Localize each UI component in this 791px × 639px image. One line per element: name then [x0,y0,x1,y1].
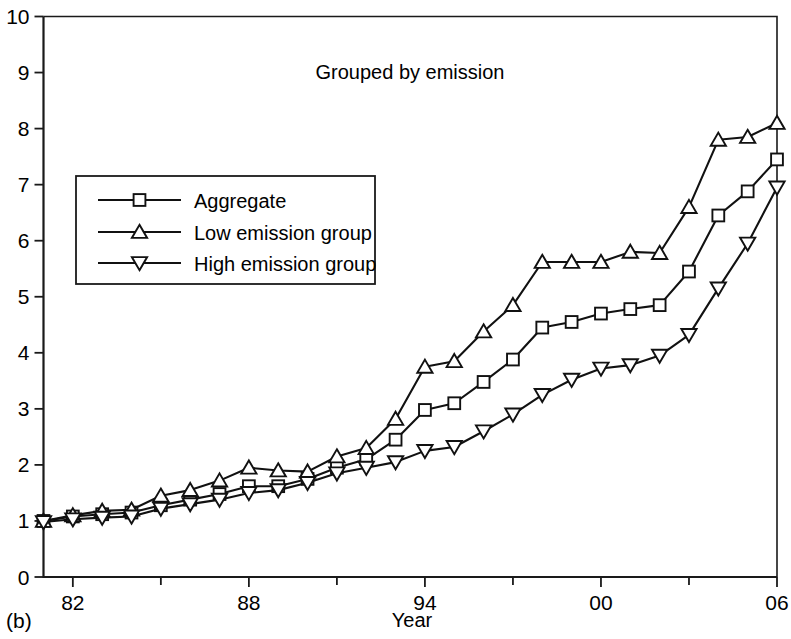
x-tick-label: 82 [61,591,84,614]
marker-triangle-down [535,389,550,402]
y-tick-label: 8 [18,117,30,140]
marker-square [742,185,754,197]
legend-label: Low emission group [194,222,372,244]
marker-triangle-down [476,425,491,438]
marker-triangle-up [212,473,227,486]
marker-triangle-up [505,298,520,311]
marker-triangle-down [593,363,608,376]
y-tick-label: 10 [6,5,29,28]
line-chart: 012345678910 8288940006 AggregateLow emi… [0,0,791,639]
marker-triangle-up [740,130,755,143]
marker-triangle-up [388,412,403,425]
y-tick-label: 9 [18,61,30,84]
y-axis-ticks: 012345678910 [6,5,43,589]
marker-square [654,299,666,311]
marker-square [507,354,519,366]
x-tick-label: 06 [765,591,788,614]
chart-legend: AggregateLow emission groupHigh emission… [76,176,376,284]
marker-triangle-down [417,445,432,458]
marker-triangle-up [241,461,256,474]
x-tick-label: 88 [237,591,260,614]
chart-title: Grouped by emission [316,61,505,83]
y-tick-label: 2 [18,453,30,476]
marker-square [448,397,460,409]
y-tick-label: 5 [18,285,30,308]
marker-square [134,194,146,206]
legend-label: High emission group [194,253,376,275]
marker-square [536,322,548,334]
marker-square [683,266,695,278]
chart-figure: 012345678910 8288940006 AggregateLow emi… [0,0,791,639]
x-tick-label: 00 [589,591,612,614]
marker-square [595,308,607,320]
x-axis-title: Year [392,609,433,631]
legend-label: Aggregate [194,190,286,212]
marker-square [624,303,636,315]
marker-triangle-up [769,116,784,129]
marker-triangle-down [769,182,784,195]
y-tick-label: 4 [18,341,30,364]
marker-triangle-down [564,374,579,387]
y-tick-label: 1 [18,509,30,532]
panel-label: (b) [6,609,32,632]
marker-triangle-down [740,238,755,251]
y-tick-label: 7 [18,173,30,196]
marker-square [419,404,431,416]
marker-triangle-down [505,409,520,422]
marker-square [566,316,578,328]
marker-square [478,376,490,388]
marker-triangle-up [681,200,696,213]
marker-triangle-down [681,329,696,342]
y-tick-label: 0 [18,566,30,589]
marker-square [712,210,724,222]
marker-square [771,154,783,166]
y-tick-label: 6 [18,229,30,252]
marker-square [390,434,402,446]
marker-triangle-down [711,282,726,295]
y-tick-label: 3 [18,397,30,420]
